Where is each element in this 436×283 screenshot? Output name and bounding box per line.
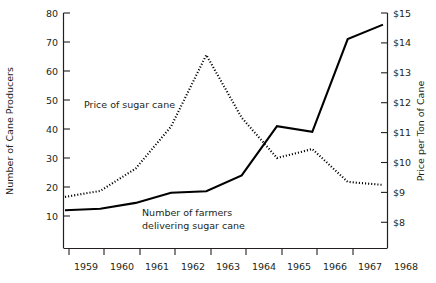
right-tick-label-9: $9	[393, 187, 405, 198]
left-tick-label-50: 50	[46, 95, 58, 106]
x-tick-label-1964: 1964	[252, 261, 276, 272]
right-axis-title: Price per Ton of Cane	[415, 81, 426, 182]
x-tick-label-1965: 1965	[287, 261, 311, 272]
right-tick-label-10: $10	[393, 157, 411, 168]
series-price-of-sugar-cane	[65, 55, 383, 197]
line-chart: 80 70 60 50 40 30 20 10 Number of Cane P…	[0, 0, 436, 283]
left-tick-label-40: 40	[46, 124, 58, 135]
x-tick-label-1968: 1968	[394, 261, 418, 272]
right-tick-label-12: $12	[393, 97, 411, 108]
left-tick-label-70: 70	[46, 37, 58, 48]
annotation-price-of-sugar-cane: Price of sugar cane	[84, 99, 175, 110]
left-tick-label-60: 60	[46, 66, 58, 77]
left-tick-label-80: 80	[46, 8, 58, 19]
chart-container: 80 70 60 50 40 30 20 10 Number of Cane P…	[0, 0, 436, 283]
left-tick-label-30: 30	[46, 153, 58, 164]
x-tick-label-1960: 1960	[110, 261, 134, 272]
x-tick-label-1962: 1962	[181, 261, 205, 272]
right-axis-ticks	[381, 13, 388, 222]
x-tick-label-1959: 1959	[74, 261, 98, 272]
x-tick-label-1963: 1963	[216, 261, 240, 272]
left-axis-title: Number of Cane Producers	[4, 67, 15, 195]
series-number-of-farmers	[65, 25, 383, 211]
x-tick-label-1961: 1961	[145, 261, 169, 272]
x-tick-label-1967: 1967	[358, 261, 382, 272]
right-tick-label-11: $11	[393, 127, 411, 138]
right-tick-label-15: $15	[393, 8, 411, 19]
left-tick-label-10: 10	[46, 211, 58, 222]
right-tick-label-13: $13	[393, 67, 411, 78]
x-axis-ticks	[69, 249, 353, 256]
left-axis-ticks	[64, 13, 71, 216]
annotation-number-of-farmers-line2: delivering sugar cane	[142, 220, 245, 231]
right-tick-label-14: $14	[393, 37, 411, 48]
annotation-number-of-farmers-line1: Number of farmers	[142, 207, 232, 218]
right-tick-label-8: $8	[393, 217, 405, 228]
x-tick-label-1966: 1966	[323, 261, 347, 272]
left-tick-label-20: 20	[46, 182, 58, 193]
